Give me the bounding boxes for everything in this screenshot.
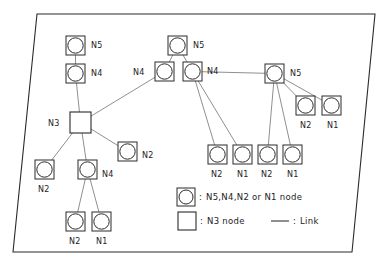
- node-n2_row_a[interactable]: [208, 145, 227, 164]
- node-label-n1_row_a: N1: [237, 171, 248, 179]
- link-n3_center_left-to-n4_center_l: [81, 72, 165, 123]
- node-label-n2_mid_left: N2: [142, 152, 153, 160]
- node-circle-n5_right: [267, 66, 282, 81]
- node-label-n4_center_r: N4: [207, 68, 218, 76]
- node-circle-n1_right_a: [324, 98, 339, 113]
- link-n4_center_r-to-n2_row_a: [193, 72, 218, 155]
- node-n4_lower_left[interactable]: [78, 160, 97, 179]
- node-circle-n4_center_r: [185, 64, 200, 79]
- node-n3_center_left[interactable]: [70, 112, 91, 133]
- node-label-n5_center: N5: [193, 42, 204, 50]
- diagram-canvas: N5N4N3N2N4N2N2N1N5N4N4N5N2N1N2N1N2N1 : N…: [0, 0, 384, 268]
- node-n4_center_r[interactable]: [183, 62, 202, 81]
- node-label-n3_center_left: N3: [48, 120, 59, 128]
- node-n4_center_l[interactable]: [155, 62, 174, 81]
- legend-link-colon: :: [293, 217, 296, 226]
- node-n5_center[interactable]: [168, 36, 187, 55]
- node-circle-n5_center: [170, 38, 185, 53]
- node-n2_right_a[interactable]: [296, 96, 315, 115]
- node-n5_left[interactable]: [66, 36, 85, 55]
- node-label-n1_right_a: N1: [327, 122, 338, 130]
- node-circle-n2_row_a: [210, 147, 225, 162]
- node-circle-n1_row_b: [285, 147, 300, 162]
- node-circle-n5_left: [68, 38, 83, 53]
- node-n1_row_b[interactable]: [283, 145, 302, 164]
- node-label-n4_lower_left: N4: [102, 171, 113, 179]
- legend-circle-node-circle: [179, 190, 193, 204]
- node-circle-n1_row_a: [235, 147, 250, 162]
- legend-square-node-label: N3 node: [207, 217, 245, 226]
- node-n1_bottom_a[interactable]: [92, 212, 111, 231]
- node-label-n2_bottom_a: N2: [69, 238, 80, 246]
- node-box-n3_center_left: [70, 112, 91, 133]
- link-n5_right-to-n1_row_b: [275, 74, 293, 155]
- node-label-n1_row_b: N1: [287, 171, 298, 179]
- node-circle-n4_lower_left: [80, 162, 95, 177]
- link-n4_center_r-to-n1_row_a: [193, 72, 243, 155]
- legend-link-label: Link: [300, 217, 319, 226]
- node-circle-n2_mid_left: [120, 144, 135, 159]
- legend-square-node-box: [178, 212, 196, 230]
- node-label-n1_bottom_a: N1: [96, 238, 107, 246]
- node-label-n2_lower_left: N2: [38, 186, 49, 194]
- node-label-n2_right_a: N2: [300, 122, 311, 130]
- node-circle-n2_row_b: [260, 147, 275, 162]
- node-label-n5_left: N5: [91, 42, 102, 50]
- node-label-n2_row_a: N2: [211, 171, 222, 179]
- node-n2_mid_left[interactable]: [118, 142, 137, 161]
- legend-square-node-colon: :: [200, 217, 203, 226]
- node-label-n2_row_b: N2: [261, 171, 272, 179]
- node-circle-n1_bottom_a: [94, 214, 109, 229]
- node-n2_lower_left[interactable]: [35, 160, 54, 179]
- node-n5_right[interactable]: [265, 64, 284, 83]
- node-label-n5_right: N5: [290, 70, 301, 78]
- legend-circle-node-colon: :: [199, 193, 202, 202]
- node-circle-n2_right_a: [298, 98, 313, 113]
- legend-circle-node-label: N5,N4,N2 or N1 node: [206, 193, 302, 202]
- node-label-n4_left: N4: [91, 70, 102, 78]
- node-n1_right_a[interactable]: [322, 96, 341, 115]
- node-label-n4_center_l: N4: [133, 69, 144, 77]
- link-n4_center_r-to-n5_right: [193, 72, 275, 74]
- node-n4_left[interactable]: [66, 64, 85, 83]
- network-topology-svg: [0, 0, 384, 268]
- node-circle-n4_center_l: [157, 64, 172, 79]
- node-n1_row_a[interactable]: [233, 145, 252, 164]
- node-circle-n2_bottom_a: [68, 214, 83, 229]
- node-n2_row_b[interactable]: [258, 145, 277, 164]
- node-circle-n4_left: [68, 66, 83, 81]
- node-n2_bottom_a[interactable]: [66, 212, 85, 231]
- node-circle-n2_lower_left: [37, 162, 52, 177]
- link-n5_right-to-n2_row_b: [268, 74, 275, 155]
